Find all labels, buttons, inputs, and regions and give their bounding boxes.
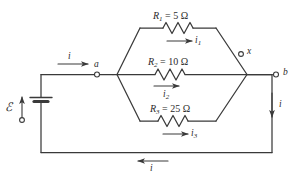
emf-terminal-marker xyxy=(20,118,25,123)
current-bottom-label: i xyxy=(150,164,153,174)
circuit-diagram-figure: R1 = 5 Ω i1 R2 = 10 Ω i2 R3 = 25 Ω i3 a … xyxy=(0,0,297,179)
current-i3-label: i3 xyxy=(191,129,197,140)
node-x-label: x xyxy=(247,47,251,57)
current-top-left-label: i xyxy=(68,52,71,62)
emf-symbol-label: ℰ xyxy=(5,101,12,113)
resistor-r3-label: R3 = 25 Ω xyxy=(150,104,190,116)
node-x-marker xyxy=(239,52,244,57)
wire-branch3-left-diagonal xyxy=(117,75,140,122)
node-a-marker xyxy=(95,72,100,77)
wire-branch1-right-diagonal xyxy=(216,28,247,75)
circuit-schematic-svg xyxy=(0,0,297,179)
wire-branch3-right-diagonal xyxy=(216,75,247,122)
node-b-label: b xyxy=(283,68,288,78)
node-a-label: a xyxy=(94,60,99,70)
resistor-r2-zigzag xyxy=(155,69,185,80)
resistor-r1-zigzag xyxy=(163,23,193,34)
current-i1-label: i1 xyxy=(195,36,201,47)
current-right-label: i xyxy=(279,100,282,110)
resistor-r3-zigzag xyxy=(158,116,188,127)
resistor-r1-label: R1 = 5 Ω xyxy=(153,11,188,23)
node-b-marker xyxy=(274,72,279,77)
current-i2-label: i2 xyxy=(163,90,169,101)
wire-branch1-left-diagonal xyxy=(117,28,140,75)
resistor-r2-label: R2 = 10 Ω xyxy=(148,57,188,69)
